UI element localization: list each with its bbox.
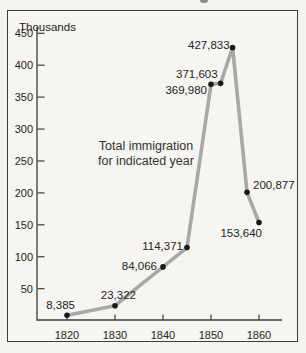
data-point-label: 23,322 (101, 289, 136, 301)
x-tick-label: 1820 (55, 329, 79, 341)
data-point-label: 8,385 (46, 299, 75, 311)
y-tick-label: 150 (15, 219, 33, 231)
y-tick-label: 300 (15, 123, 33, 135)
data-point-label: 200,877 (253, 179, 295, 191)
y-axis-unit-label: Thousands (19, 21, 76, 33)
data-point (184, 245, 190, 251)
data-point-label: 114,371 (142, 240, 183, 252)
data-point (230, 45, 236, 51)
data-point (160, 264, 166, 270)
immigration-line-chart: 5010015020025030035040045018201830184018… (0, 0, 306, 353)
immigration-line (67, 47, 259, 315)
book-page: 5010015020025030035040045018201830184018… (0, 0, 306, 353)
data-point-label: 153,640 (220, 227, 262, 239)
x-tick-label: 1830 (103, 329, 127, 341)
data-point-label: 369,980 (165, 84, 207, 96)
y-tick-label: 200 (15, 187, 33, 199)
data-point (112, 303, 118, 309)
data-point-label: 84,066 (122, 260, 157, 272)
series-annotation: Total immigration (99, 139, 194, 153)
data-point (208, 82, 214, 88)
y-tick-label: 400 (15, 59, 33, 71)
data-point-label: 427,833 (188, 39, 230, 51)
data-point (244, 190, 250, 196)
x-tick-label: 1850 (199, 329, 223, 341)
data-point (64, 312, 70, 318)
series-annotation: for indicated year (98, 154, 194, 168)
data-point-label: 371,603 (176, 68, 218, 80)
data-point (218, 81, 224, 87)
data-point (256, 220, 262, 226)
x-tick-label: 1840 (151, 329, 175, 341)
y-tick-label: 350 (15, 91, 33, 103)
y-tick-label: 250 (15, 155, 33, 167)
y-tick-label: 100 (15, 251, 33, 263)
x-tick-label: 1860 (247, 329, 271, 341)
y-tick-label: 50 (21, 283, 33, 295)
